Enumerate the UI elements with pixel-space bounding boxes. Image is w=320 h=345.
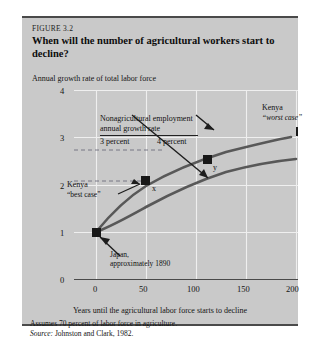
source-note: Source: Johnston and Clark, 1982. bbox=[30, 329, 133, 338]
marker-x[interactable] bbox=[141, 176, 150, 185]
marker-label-x: x bbox=[152, 184, 156, 193]
y-tick-2: 2 bbox=[60, 181, 64, 191]
annotation-divider bbox=[100, 135, 198, 136]
annotation-nonag-line2: annual growth rate bbox=[100, 124, 160, 133]
marker-y[interactable] bbox=[203, 155, 212, 164]
y-tick-1: 1 bbox=[60, 228, 64, 238]
y-tick-4: 4 bbox=[60, 86, 64, 96]
x-tick-150: 150 bbox=[237, 284, 250, 294]
annotation-nonag-line1: Nonagricultural employment bbox=[100, 114, 193, 123]
annotation-4-percent: 4 percent bbox=[157, 137, 187, 147]
arrowhead-3-percent bbox=[199, 169, 208, 178]
annotation-japan-line1: Japan, bbox=[110, 250, 129, 259]
annotation-kenya-worst-line1: Kenya bbox=[262, 103, 283, 112]
y-tick-0: 0 bbox=[60, 275, 64, 285]
annotation-kenya-worst-line2: “worst case” bbox=[262, 113, 302, 122]
annotation-japan-line2: approximately 1890 bbox=[110, 259, 170, 268]
arrowhead-japan bbox=[100, 237, 110, 245]
annotation-kenya-worst-case: Kenya “worst case” bbox=[262, 103, 302, 122]
figure-label: FIGURE 3.2 bbox=[32, 24, 73, 33]
marker-japan[interactable] bbox=[92, 228, 101, 237]
annotation-nonagricultural: Nonagricultural employment annual growth… bbox=[100, 114, 193, 133]
source-text: Johnston and Clark, 1982. bbox=[55, 329, 134, 338]
leader-4-percent bbox=[196, 115, 214, 130]
marker-kenya-worst[interactable] bbox=[296, 127, 298, 136]
annotation-kenya-best-line2: “best case” bbox=[67, 190, 101, 199]
source-label: Source: bbox=[30, 329, 53, 338]
assumption-note: Assumes 70 percent of labor force in agr… bbox=[30, 319, 177, 328]
annotation-japan: Japan, approximately 1890 bbox=[110, 250, 170, 268]
annotation-kenya-best-line1: Kenya bbox=[67, 180, 88, 189]
marker-label-y: y bbox=[213, 163, 217, 172]
arrowhead-4-percent bbox=[204, 123, 214, 130]
y-axis-caption: Annual growth rate of total labor force bbox=[32, 74, 156, 83]
x-axis-caption: Years until the agricultural labor force… bbox=[22, 306, 298, 315]
annotation-kenya-best-case: Kenya “best case” bbox=[67, 180, 101, 199]
x-tick-100: 100 bbox=[187, 284, 200, 294]
annotation-3-percent: 3 percent bbox=[100, 137, 130, 147]
x-tick-0: 0 bbox=[93, 284, 97, 294]
x-tick-200: 200 bbox=[286, 284, 299, 294]
arrowhead-kenya-best bbox=[131, 179, 140, 184]
figure-title: When will the number of agricultural wor… bbox=[32, 35, 282, 60]
figure-panel: FIGURE 3.2 When will the number of agric… bbox=[22, 16, 298, 326]
y-tick-3: 3 bbox=[60, 133, 64, 143]
x-tick-50: 50 bbox=[139, 284, 148, 294]
